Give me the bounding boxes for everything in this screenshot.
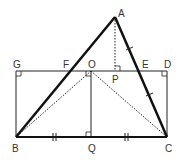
label-F: F (63, 59, 69, 70)
segment-AC (115, 17, 167, 137)
right-angle-P (115, 66, 120, 71)
label-B: B (12, 143, 19, 154)
label-G: G (13, 59, 21, 70)
right-angle-D (162, 71, 167, 76)
label-P: P (112, 74, 119, 85)
label-O: O (88, 59, 96, 70)
geometry-diagram: A G F O E D P B Q C (0, 0, 185, 166)
segment-OB-dotted (16, 71, 91, 137)
label-C: C (165, 143, 172, 154)
label-D: D (164, 59, 171, 70)
segment-OC-dotted (91, 71, 167, 137)
segment-AB (16, 17, 115, 137)
label-Q: Q (88, 143, 96, 154)
label-E: E (142, 59, 149, 70)
right-angle-G (16, 71, 21, 76)
label-A: A (118, 8, 125, 19)
